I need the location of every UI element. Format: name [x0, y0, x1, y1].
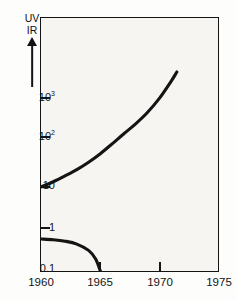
chart-figure: UV IR 103 102 10 1 0.1 1960 1965 1970 19… — [0, 0, 236, 301]
lower-curve — [42, 239, 101, 271]
upper-curve — [42, 72, 177, 187]
x-tick-label-1960: 1960 — [18, 276, 64, 288]
x-tick-label-1975: 1975 — [196, 276, 236, 288]
curve-layer — [0, 0, 236, 301]
x-tick-label-1965: 1965 — [77, 276, 123, 288]
x-tick-label-1970: 1970 — [137, 276, 183, 288]
